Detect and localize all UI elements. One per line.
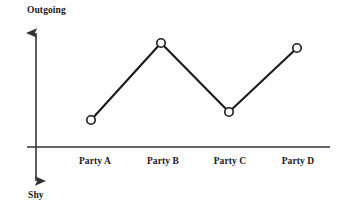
line-chart-graphic [0, 0, 347, 211]
data-point-marker [87, 116, 95, 124]
x-axis-tick-label-party-d: Party D [282, 157, 315, 167]
series-line [91, 43, 297, 120]
series-markers [87, 39, 301, 124]
y-axis-bottom-caption: Shy [28, 191, 44, 201]
x-axis-tick-label-party-a: Party A [79, 157, 111, 167]
x-axis-tick-label-party-b: Party B [147, 157, 179, 167]
data-point-marker [225, 108, 233, 116]
data-point-marker [293, 44, 301, 52]
x-axis-tick-label-party-c: Party C [214, 157, 247, 167]
data-point-marker [157, 39, 165, 47]
chart-canvas: Outgoing Shy Party A Party B Party C Par… [0, 0, 347, 211]
y-axis-top-caption: Outgoing [27, 6, 66, 16]
